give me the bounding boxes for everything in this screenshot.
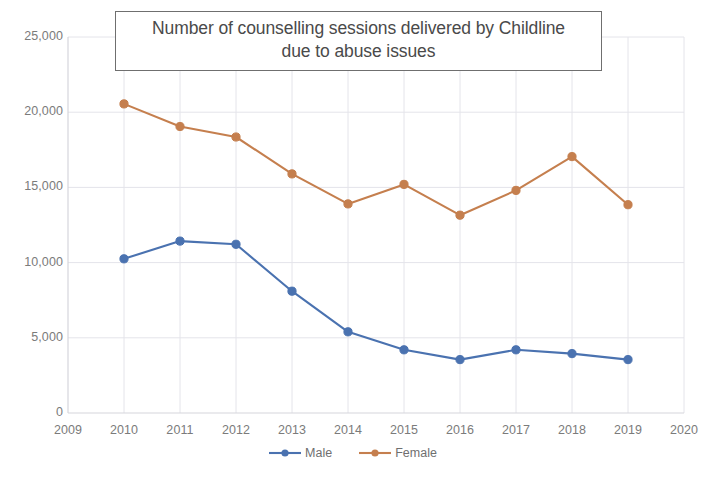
x-tick-2020: 2020 [654, 423, 705, 437]
x-tick-2016: 2016 [430, 423, 490, 437]
legend-marker-icon [268, 447, 302, 459]
x-tick-2013: 2013 [262, 423, 322, 437]
x-tick-2011: 2011 [150, 423, 210, 437]
x-tick-2009: 2009 [38, 423, 98, 437]
legend-item-female[interactable]: Female [358, 447, 437, 460]
legend-item-male[interactable]: Male [268, 447, 332, 460]
x-tick-2017: 2017 [486, 423, 546, 437]
chart-container: Number of counselling sessions delivered… [0, 0, 705, 478]
x-tick-2012: 2012 [206, 423, 266, 437]
chart-legend: MaleFemale [0, 447, 705, 460]
legend-label: Male [305, 447, 332, 460]
x-tick-2014: 2014 [318, 423, 378, 437]
x-axis-tick-labels: 2009201020112012201320142015201620172018… [0, 0, 705, 478]
legend-label: Female [395, 447, 437, 460]
x-tick-2010: 2010 [94, 423, 154, 437]
x-tick-2018: 2018 [542, 423, 602, 437]
legend-marker-icon [358, 447, 392, 459]
x-tick-2015: 2015 [374, 423, 434, 437]
x-tick-2019: 2019 [598, 423, 658, 437]
